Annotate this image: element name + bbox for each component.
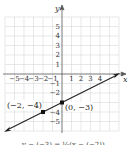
point-label-neg2-neg4: (−2, −4) [7, 101, 42, 110]
point-label-0-neg3: (0, −3) [65, 103, 93, 112]
equation-partial: y − (−3) = ½(x − (−2)) [21, 141, 105, 145]
y-tick: 1 [56, 61, 60, 69]
y-tick: 5 [56, 23, 60, 31]
x-tick: 2 [79, 75, 83, 83]
y-tick: −5 [50, 118, 60, 126]
coordinate-plane: x y −5 −4 −3 −2 −1 1 2 3 4 5 4 3 2 1 −1 … [0, 0, 129, 145]
point-neg2-neg4 [41, 110, 45, 114]
y-tick: −1 [50, 80, 60, 88]
y-tick: −4 [50, 109, 61, 117]
y-axis-label: y [54, 4, 60, 13]
x-axis-label: x [123, 75, 128, 84]
x-tick: 1 [69, 75, 73, 83]
y-tick: 3 [56, 42, 60, 50]
y-tick: 2 [56, 51, 60, 59]
x-tick: 3 [88, 75, 92, 83]
axes [3, 5, 126, 133]
y-axis-arrow-icon [60, 5, 64, 10]
y-tick: 4 [56, 32, 61, 40]
x-tick: 4 [98, 75, 103, 83]
y-tick: −2 [50, 89, 60, 97]
point-0-neg3 [60, 101, 64, 105]
